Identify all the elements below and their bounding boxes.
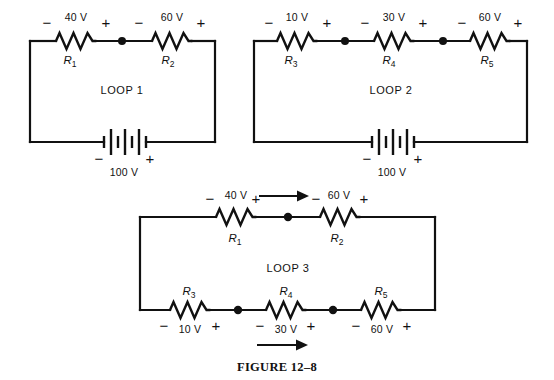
loop-2-resistor-r3-symbol [277,33,317,49]
loop-1-node-dot [118,37,126,45]
loop-3-r3-drop-label: 10 V [179,323,201,335]
loop-2-r3-ref-label: R3 [284,54,297,69]
current-arrow-top [259,191,309,202]
loop-3-r4-plus-sign: + [307,317,316,334]
loop-3-node-dot-bottom-a [234,306,242,314]
loop-1-resistor-r2-symbol [152,33,192,49]
loop-2-group: 10 V − + R3 30 V − + R4 60 V − + R5 LOOP… [254,11,527,178]
loop-3-r1-minus-sign: − [206,190,215,207]
loop-3-r2-plus-sign: + [360,190,369,207]
loop-1-group: 40 V − + R1 60 V − + R2 LOOP 1 − + 100 V [30,11,215,178]
loop-3-r1-ref-label: R1 [228,232,241,247]
loop-2-r5-plus-sign: + [514,14,523,31]
figure-12-8: 40 V − + R1 60 V − + R2 LOOP 1 − + 100 V [0,0,554,380]
loop-3-node-dot-top [284,213,292,221]
loop-2-r5-ref-label: R5 [480,54,493,69]
loop-1-r1-plus-sign: + [102,14,111,31]
circuit-diagram-canvas: 40 V − + R1 60 V − + R2 LOOP 1 − + 100 V [0,0,554,380]
loop-3-group: 40 V − + R1 60 V − + R2 LOOP 3 R3 10 V −… [140,189,435,351]
loop-3-resistor-r4-symbol [266,302,306,318]
loop-3-node-dot-bottom-b [329,306,337,314]
loop-1-source-label: 100 V [110,166,138,178]
loop-3-r4-ref-label: R4 [279,285,292,300]
loop-2-node-dot-a [341,37,349,45]
loop-3-resistor-r1-symbol [216,209,256,225]
loop-2-name-label: LOOP 2 [369,84,412,96]
loop-3-r4-minus-sign: − [256,317,265,334]
loop-3-r4-drop-label: 30 V [275,323,297,335]
loop-3-r1-plus-sign: + [252,190,261,207]
loop-1-r1-minus-sign: − [43,14,52,31]
current-arrow-top-head [297,191,309,202]
loop-2-r5-minus-sign: − [458,14,467,31]
loop-1-r1-drop-label: 40 V [65,11,87,23]
loop-2-node-dot-b [439,37,447,45]
loop-3-resistor-r3-symbol [170,302,210,318]
loop-1-r2-plus-sign: + [197,14,206,31]
loop-3-r1-drop-label: 40 V [225,189,247,201]
loop-1-battery-symbol [104,129,146,155]
loop-2-source-plus-sign: + [414,150,423,167]
loop-1-r2-minus-sign: − [135,14,144,31]
loop-2-r4-ref-label: R4 [382,54,395,69]
loop-3-r3-minus-sign: − [160,317,169,334]
loop-3-name-label: LOOP 3 [266,262,309,274]
loop-2-source-minus-sign: − [363,150,372,167]
loop-3-r5-minus-sign: − [352,317,361,334]
loop-3-r3-plus-sign: + [212,317,221,334]
loop-2-battery-symbol [372,129,414,155]
loop-3-r5-plus-sign: + [403,317,412,334]
loop-2-resistor-r4-symbol [374,33,414,49]
loop-2-r3-drop-label: 10 V [286,11,308,23]
loop-2-r5-drop-label: 60 V [479,11,501,23]
loop-3-r2-minus-sign: − [312,190,321,207]
loop-3-r2-ref-label: R2 [330,232,343,247]
current-arrow-bottom [257,340,308,351]
loop-1-source-minus-sign: − [95,150,104,167]
loop-2-r4-drop-label: 30 V [383,11,405,23]
loop-1-source-plus-sign: + [146,150,155,167]
loop-1-r2-ref-label: R2 [161,54,174,69]
loop-3-r5-ref-label: R5 [374,285,387,300]
loop-1-name-label: LOOP 1 [100,84,143,96]
loop-3-r3-ref-label: R3 [182,285,195,300]
loop-3-resistor-r2-symbol [320,209,360,225]
loop-3-r2-drop-label: 60 V [328,189,350,201]
loop-1-r1-ref-label: R1 [63,54,76,69]
loop-1-resistor-r1-symbol [56,33,96,49]
loop-2-r3-minus-sign: − [265,14,274,31]
loop-2-source-label: 100 V [378,166,406,178]
current-arrow-bottom-head [296,340,308,351]
figure-caption: FIGURE 12–8 [237,360,317,374]
loop-3-resistor-r5-symbol [361,302,401,318]
loop-3-r5-drop-label: 60 V [371,323,393,335]
loop-2-r4-minus-sign: − [361,14,370,31]
loop-2-r4-plus-sign: + [419,14,428,31]
loop-2-r3-plus-sign: + [323,14,332,31]
loop-2-resistor-r5-symbol [470,33,510,49]
loop-1-r2-drop-label: 60 V [161,11,183,23]
